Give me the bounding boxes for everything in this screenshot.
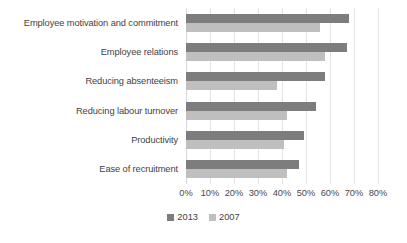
axis-tick-label: 30% <box>249 188 268 198</box>
axis-tick-label: 70% <box>345 188 364 198</box>
axis-tick-label: 40% <box>273 188 292 198</box>
gridline <box>378 8 379 184</box>
bar-2007 <box>186 111 287 120</box>
legend-swatch-icon <box>209 214 216 221</box>
category-label: Ease of recruitment <box>0 155 182 184</box>
legend-label: 2007 <box>219 212 240 222</box>
legend-entry[interactable]: 2013 <box>167 212 198 222</box>
category-label: Productivity <box>0 125 182 154</box>
bar-2007 <box>186 81 277 90</box>
bar-group <box>186 8 378 37</box>
category-label: Reducing absenteeism <box>0 67 182 96</box>
category-label: Reducing labour turnover <box>0 96 182 125</box>
bar-2013 <box>186 14 349 23</box>
axis-tick-label: 80% <box>369 188 388 198</box>
bar-2007 <box>186 140 284 149</box>
plot-area <box>186 8 378 184</box>
legend-label: 2013 <box>177 212 198 222</box>
bar-2013 <box>186 102 316 111</box>
axis-tick-label: 20% <box>225 188 244 198</box>
legend-swatch-icon <box>167 214 174 221</box>
bar-2007 <box>186 23 320 32</box>
axis-tick-label: 50% <box>297 188 316 198</box>
category-label: Employee motivation and commitment <box>0 8 182 37</box>
bar-2013 <box>186 160 299 169</box>
chart-legend: 20132007 <box>0 212 407 222</box>
category-label: Employee relations <box>0 37 182 66</box>
value-axis: 0%10%20%30%40%50%60%70%80% <box>186 188 378 204</box>
bar-2013 <box>186 43 347 52</box>
bar-group <box>186 96 378 125</box>
bar-group <box>186 67 378 96</box>
legend-entry[interactable]: 2007 <box>209 212 240 222</box>
axis-tick-label: 10% <box>201 188 220 198</box>
axis-tick-label: 0% <box>179 188 192 198</box>
bar-2013 <box>186 72 325 81</box>
bar-2007 <box>186 169 287 178</box>
category-axis: Employee motivation and commitmentEmploy… <box>0 8 182 184</box>
bar-2013 <box>186 131 304 140</box>
bar-chart: Employee motivation and commitmentEmploy… <box>0 0 407 243</box>
bar-group <box>186 155 378 184</box>
bar-groups <box>186 8 378 184</box>
axis-tick-label: 60% <box>321 188 340 198</box>
bar-group <box>186 37 378 66</box>
bar-group <box>186 125 378 154</box>
bar-2007 <box>186 52 325 61</box>
chart-plot-wrapper: Employee motivation and commitmentEmploy… <box>0 0 407 186</box>
